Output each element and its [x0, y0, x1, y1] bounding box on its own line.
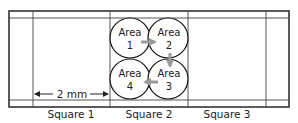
area-1-circle	[110, 18, 150, 58]
area-4-number: 4	[127, 81, 133, 92]
area-4-circle	[110, 59, 150, 99]
square-1-label: Square 1	[48, 108, 95, 120]
scale-label: 2 mm	[57, 88, 87, 100]
area-3-label: Area	[157, 68, 180, 79]
counting-grid-diagram: Area 1 Area 2 Area 3 Area 4 2 mm Square …	[0, 0, 298, 123]
area-2-number: 2	[166, 40, 172, 51]
outer-border	[9, 11, 289, 107]
square-3-label: Square 3	[204, 108, 251, 120]
area-2-circle	[148, 18, 188, 58]
area-2-label: Area	[157, 27, 180, 38]
area-1-number: 1	[127, 40, 133, 51]
area-4-label: Area	[118, 68, 141, 79]
area-3-number: 3	[166, 81, 172, 92]
square-2-label: Square 2	[126, 108, 173, 120]
area-1-label: Area	[118, 27, 141, 38]
area-3-circle	[148, 59, 188, 99]
